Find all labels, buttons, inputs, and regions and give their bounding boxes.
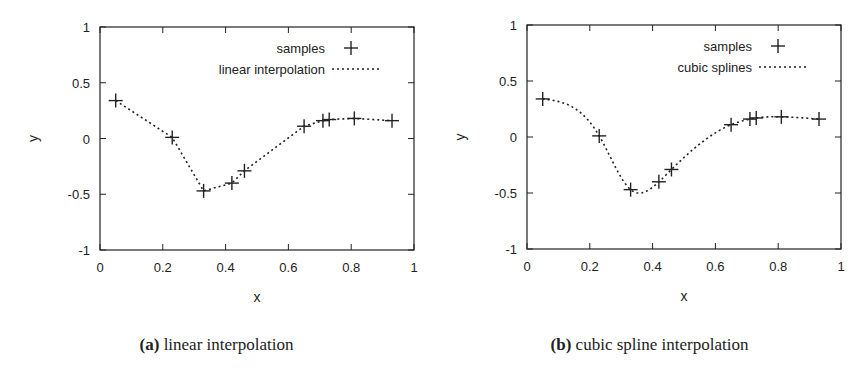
sample-marker	[749, 111, 763, 125]
interpolation-curve	[543, 99, 819, 193]
sample-marker	[297, 119, 311, 133]
legend-plus-icon	[771, 39, 785, 53]
x-tick-label: 1	[837, 259, 844, 274]
legend-plus-icon	[344, 41, 358, 55]
caption-label: (b)	[551, 335, 572, 354]
panel-b: 00.20.40.60.8110.50-0.5-1xysamplescubic …	[433, 0, 866, 378]
chart-cubic-spline-interpolation: 00.20.40.60.8110.50-0.5-1xysamplescubic …	[433, 0, 866, 320]
y-tick-label: -1	[78, 243, 90, 258]
sample-marker	[322, 113, 336, 127]
y-tick-label: 0.5	[499, 74, 517, 89]
caption-a: (a) linear interpolation	[0, 335, 433, 355]
legend-samples-label: samples	[704, 39, 753, 54]
y-tick-label: 1	[83, 20, 90, 35]
sample-marker	[197, 184, 211, 198]
y-tick-label: 0.5	[72, 76, 90, 91]
chart-linear-interpolation: 00.20.40.60.8110.50-0.5-1xysampleslinear…	[0, 0, 433, 320]
sample-marker	[536, 92, 550, 106]
sample-marker	[385, 114, 399, 128]
x-tick-label: 0.2	[581, 259, 599, 274]
sample-marker	[592, 129, 606, 143]
x-tick-label: 0.4	[644, 259, 662, 274]
sample-marker	[652, 175, 666, 189]
x-tick-label: 0.8	[769, 259, 787, 274]
sample-marker	[812, 112, 826, 126]
y-tick-label: 1	[510, 18, 517, 33]
legend-line-label: linear interpolation	[219, 62, 325, 77]
legend-line-label: cubic splines	[678, 60, 753, 75]
y-tick-label: -1	[505, 242, 517, 257]
caption-text: cubic spline interpolation	[576, 335, 749, 354]
sample-marker	[347, 111, 361, 125]
x-axis-label: x	[254, 289, 261, 305]
y-axis-label: y	[25, 135, 41, 142]
caption-b: (b) cubic spline interpolation	[433, 335, 866, 355]
sample-marker	[165, 130, 179, 144]
sample-marker	[774, 110, 788, 124]
y-tick-label: 0	[510, 130, 517, 145]
x-tick-label: 0.4	[217, 260, 235, 275]
legend-samples-label: samples	[277, 41, 326, 56]
sample-marker	[237, 164, 251, 178]
sample-marker	[316, 114, 330, 128]
y-tick-label: -0.5	[68, 187, 90, 202]
plot-frame	[100, 27, 414, 250]
y-axis-label: y	[452, 134, 468, 141]
interpolation-curve	[116, 101, 392, 191]
x-tick-label: 0.6	[706, 259, 724, 274]
x-tick-label: 0	[523, 259, 530, 274]
sample-marker	[724, 118, 738, 132]
panel-a: 00.20.40.60.8110.50-0.5-1xysampleslinear…	[0, 0, 433, 378]
caption-text: linear interpolation	[164, 335, 294, 354]
x-tick-label: 0	[96, 260, 103, 275]
sample-marker	[743, 112, 757, 126]
x-tick-label: 1	[410, 260, 417, 275]
y-tick-label: 0	[83, 132, 90, 147]
sample-marker	[109, 94, 123, 108]
x-tick-label: 0.8	[342, 260, 360, 275]
x-axis-label: x	[681, 288, 688, 304]
x-tick-label: 0.6	[279, 260, 297, 275]
plot-frame	[527, 25, 841, 249]
y-tick-label: -0.5	[495, 186, 517, 201]
caption-label: (a)	[140, 335, 160, 354]
x-tick-label: 0.2	[154, 260, 172, 275]
